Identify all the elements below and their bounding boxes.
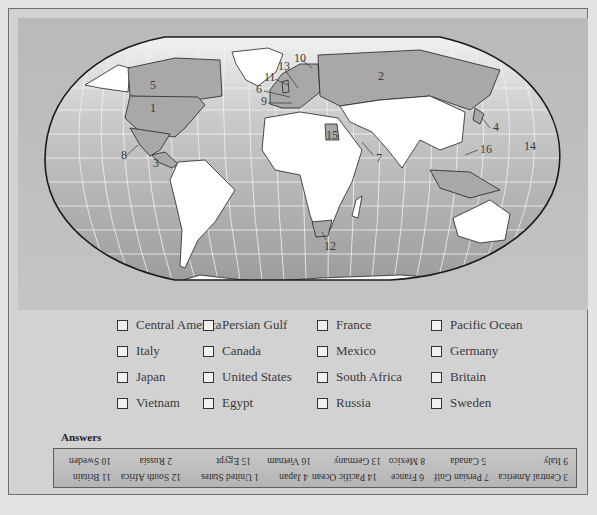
answer-item: 2 Russia — [140, 456, 172, 466]
answer-item: 13 Germany — [334, 456, 381, 466]
checklist-label: United States — [222, 369, 292, 385]
checkbox[interactable] — [317, 372, 328, 383]
checklist-label: Russia — [336, 395, 371, 411]
checklist-item[interactable]: Pacific Ocean — [431, 316, 523, 334]
checkbox[interactable] — [203, 398, 214, 409]
checkbox[interactable] — [431, 320, 442, 331]
checklist-item[interactable]: Japan — [117, 368, 166, 386]
answers-key-upside-down: 3 Central America 7 Persian Gulf 6 Franc… — [53, 448, 577, 488]
map-number-label: 5 — [150, 78, 156, 92]
checklist-item[interactable]: Persian Gulf — [203, 316, 287, 334]
checklist-label: Vietnam — [136, 395, 180, 411]
map-number-label: 16 — [480, 142, 492, 156]
checkbox[interactable] — [317, 346, 328, 357]
map-number-label: 12 — [324, 239, 336, 253]
map-number-label: 7 — [376, 151, 382, 165]
checklist-label: France — [336, 317, 371, 333]
checkbox[interactable] — [317, 398, 328, 409]
checklist-item[interactable]: Mexico — [317, 342, 376, 360]
checkbox[interactable] — [431, 346, 442, 357]
map-number-label: 15 — [326, 128, 338, 142]
checklist-label: Canada — [222, 343, 261, 359]
map-number-label: 4 — [493, 120, 499, 134]
answer-item: 8 Mexico — [389, 456, 425, 466]
answer-item: 15 Egypt — [216, 456, 251, 466]
map-number-label: 14 — [524, 139, 536, 153]
checklist-label: Pacific Ocean — [450, 317, 523, 333]
answer-item: 10 Sweden — [69, 456, 111, 466]
checkbox[interactable] — [117, 320, 128, 331]
checklist-label: Egypt — [222, 395, 253, 411]
checklist-item[interactable]: Britain — [431, 368, 486, 386]
checkbox[interactable] — [117, 346, 128, 357]
map-number-label: 11 — [264, 70, 276, 84]
map-number-label: 13 — [278, 59, 290, 73]
checklist-item[interactable]: Egypt — [203, 394, 253, 412]
checklist-label: Sweden — [450, 395, 491, 411]
answer-item: 14 Pacific Ocean — [312, 472, 377, 482]
answer-item: 5 Canada — [450, 456, 486, 466]
checkbox[interactable] — [317, 320, 328, 331]
checkbox[interactable] — [117, 372, 128, 383]
checklist-item[interactable]: Germany — [431, 342, 498, 360]
checkbox[interactable] — [431, 398, 442, 409]
answer-item: 3 Central America — [498, 472, 568, 482]
checklist-label: Persian Gulf — [222, 317, 287, 333]
map-number-label: 10 — [294, 51, 306, 65]
answers-heading: Answers — [61, 431, 101, 443]
map-number-label: 1 — [150, 101, 156, 115]
checklist-item[interactable]: Sweden — [431, 394, 491, 412]
answer-item: 7 Persian Gulf — [434, 472, 489, 482]
answer-item: 16 Vietnam — [267, 456, 311, 466]
map-number-label: 9 — [261, 94, 267, 108]
checklist-item[interactable]: South Africa — [317, 368, 402, 386]
checklist-label: Germany — [450, 343, 498, 359]
checklist-item[interactable]: Vietnam — [117, 394, 180, 412]
map-body — [40, 30, 570, 295]
checklist-item[interactable]: Russia — [317, 394, 371, 412]
checklist-label: Mexico — [336, 343, 376, 359]
checkbox[interactable] — [117, 398, 128, 409]
checklist-label: Japan — [136, 369, 166, 385]
checklist-label: Britain — [450, 369, 486, 385]
answer-item: 12 South Africa — [121, 472, 181, 482]
map-number-label: 8 — [121, 148, 127, 162]
answer-item: 11 Britain — [73, 472, 111, 482]
checklist-label: South Africa — [336, 369, 402, 385]
answer-item: 9 Italy — [543, 456, 568, 466]
checklist-item[interactable]: United States — [203, 368, 292, 386]
map-number-label: 3 — [153, 156, 159, 170]
checklist-label: Italy — [136, 343, 160, 359]
checklist-item[interactable]: Italy — [117, 342, 160, 360]
checkbox[interactable] — [431, 372, 442, 383]
map-number-label: 2 — [378, 69, 384, 83]
checkbox[interactable] — [203, 320, 214, 331]
checklist-item[interactable]: France — [317, 316, 371, 334]
checkbox[interactable] — [203, 372, 214, 383]
checkbox[interactable] — [203, 346, 214, 357]
answer-item: 1 United States — [201, 472, 259, 482]
checklist-item[interactable]: Canada — [203, 342, 261, 360]
answer-item: 4 Japan — [279, 472, 308, 482]
answer-item: 6 France — [391, 472, 424, 482]
